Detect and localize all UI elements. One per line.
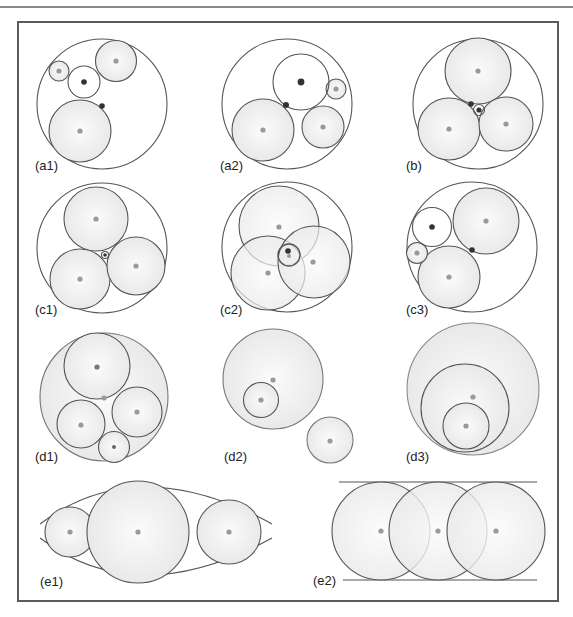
panel-d1: (d1): [35, 333, 168, 464]
svg-text:(d1): (d1): [35, 449, 58, 464]
panel-a1: (a1): [35, 39, 167, 173]
svg-text:(a1): (a1): [35, 158, 58, 173]
svg-text:(c3): (c3): [406, 302, 428, 317]
panel-c1: (c1): [35, 183, 167, 317]
svg-text:(d2): (d2): [224, 449, 247, 464]
panel-d3: (d3): [406, 323, 539, 464]
svg-text:(c2): (c2): [220, 302, 242, 317]
panel-b: (b): [406, 38, 543, 173]
svg-text:(e1): (e1): [40, 574, 63, 589]
panel-c3: (c3): [406, 182, 537, 317]
panel-d2: (d2): [223, 329, 353, 464]
svg-text:(d3): (d3): [406, 449, 429, 464]
svg-text:(b): (b): [406, 158, 422, 173]
svg-text:(c1): (c1): [35, 302, 57, 317]
panel-c2: (c2): [220, 182, 352, 317]
panel-a2: (a2): [220, 39, 352, 173]
circle-packing-figure: (a1) (a2): [0, 0, 573, 617]
panel-e1: (e1): [40, 481, 272, 589]
svg-text:(a2): (a2): [220, 158, 243, 173]
svg-text:(e2): (e2): [313, 573, 336, 588]
panel-e2: (e2): [313, 482, 545, 588]
